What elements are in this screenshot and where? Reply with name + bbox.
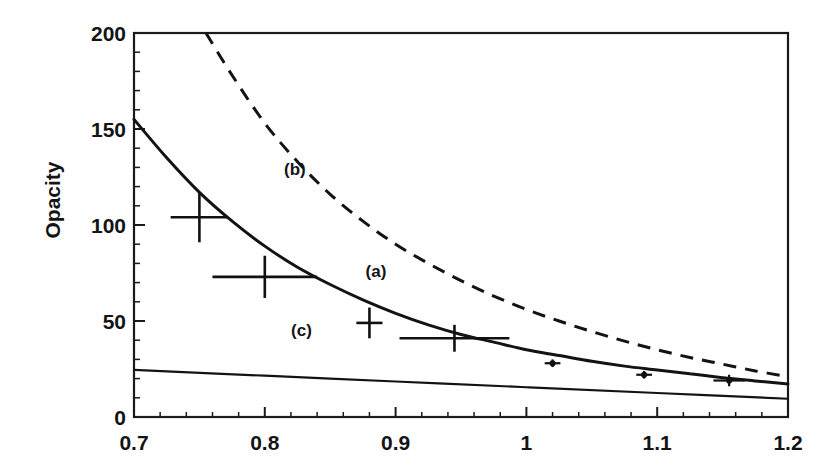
y-tick-label: 0 bbox=[114, 406, 126, 429]
series-inline-labels: (a)(b)(c) bbox=[284, 160, 386, 340]
y-tick-label: 150 bbox=[91, 118, 126, 141]
curve-label-b: (b) bbox=[284, 160, 306, 179]
data-point-errorbar bbox=[212, 256, 317, 298]
data-point-marker bbox=[641, 372, 647, 378]
axis-major-ticks bbox=[134, 33, 788, 417]
x-tick-label: 0.7 bbox=[119, 431, 148, 454]
curve-label-a: (a) bbox=[366, 262, 387, 281]
opacity-chart-figure: Opacity 050100150200 0.70.80.911.11.2 (a… bbox=[0, 0, 833, 471]
y-axis-title: Opacity bbox=[41, 161, 64, 238]
data-points-layer bbox=[171, 192, 745, 386]
x-tick-label: 0.9 bbox=[381, 431, 410, 454]
data-point-errorbar bbox=[545, 359, 561, 367]
plot-frame-border bbox=[134, 33, 788, 417]
axis-minor-ticks bbox=[134, 52, 762, 417]
data-point-marker bbox=[549, 360, 555, 366]
data-point-errorbar bbox=[356, 308, 382, 339]
series-curve-a bbox=[134, 119, 788, 384]
curve-label-c: (c) bbox=[291, 321, 312, 340]
x-tick-label: 1 bbox=[521, 431, 533, 454]
x-tick-label: 0.8 bbox=[250, 431, 280, 454]
data-point-errorbar bbox=[171, 192, 229, 242]
x-tick-label: 1.2 bbox=[773, 431, 802, 454]
data-point-errorbar bbox=[400, 325, 510, 352]
y-axis-title-label: Opacity bbox=[41, 161, 64, 238]
chart-canvas: Opacity 050100150200 0.70.80.911.11.2 (a… bbox=[0, 0, 833, 471]
series-curves bbox=[134, 33, 788, 399]
data-point-marker bbox=[726, 377, 732, 383]
y-tick-label: 50 bbox=[103, 310, 126, 333]
data-point-errorbar bbox=[636, 371, 652, 379]
y-axis-tick-labels: 050100150200 bbox=[91, 22, 126, 429]
y-tick-label: 100 bbox=[91, 214, 126, 237]
x-axis-tick-labels: 0.70.80.911.11.2 bbox=[119, 431, 802, 454]
y-tick-label: 200 bbox=[91, 22, 126, 45]
x-tick-label: 1.1 bbox=[643, 431, 673, 454]
